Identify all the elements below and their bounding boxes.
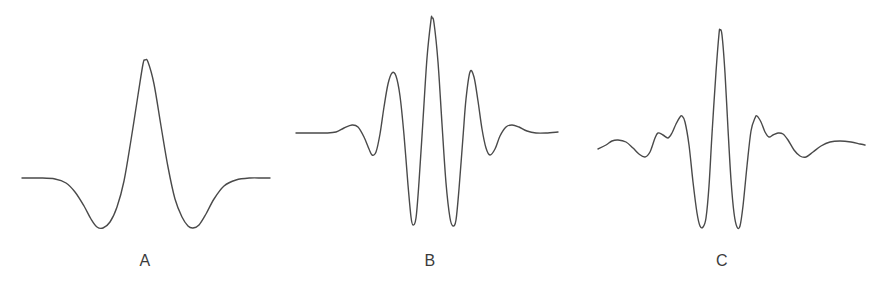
waveform-curve-b	[296, 16, 558, 226]
figure-container: A B C	[0, 0, 884, 292]
waveform-curve-a	[22, 59, 270, 228]
panel-label-a: A	[105, 252, 185, 270]
waveform-canvas	[0, 0, 884, 292]
panel-label-c: C	[682, 252, 762, 270]
panel-label-b: B	[390, 252, 470, 270]
waveform-curve-c	[598, 29, 865, 228]
